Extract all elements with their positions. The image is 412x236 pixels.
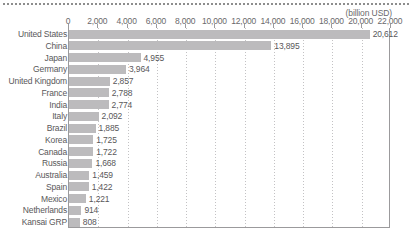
bar-value-label: 13,895 <box>274 41 299 51</box>
bar <box>69 100 109 109</box>
bar <box>69 53 141 62</box>
category-label: Australia <box>35 170 67 180</box>
bar-value-label: 3,964 <box>129 64 150 74</box>
bar-value-label: 2,774 <box>112 100 133 110</box>
category-label: United States <box>18 29 67 39</box>
bar-value-label: 4,955 <box>144 53 165 63</box>
bar-row: France2,788 <box>0 87 412 99</box>
category-label: India <box>49 100 67 110</box>
bar-row: Russia1,668 <box>0 157 412 169</box>
category-label: France <box>41 88 67 98</box>
axis-tick-label: 18,000 <box>319 16 344 26</box>
category-label: Spain <box>46 182 67 192</box>
bar-row: India2,774 <box>0 99 412 111</box>
bar <box>69 206 81 215</box>
bar-row: Kansai GRP808 <box>0 216 412 228</box>
axis-tick-labels: 02,0004,0006,0008,00010,00012,00014,0001… <box>0 16 412 26</box>
bar-row: United Kingdom2,857 <box>0 75 412 87</box>
category-label: Netherlands <box>23 205 67 215</box>
bar-row: United States20,612 <box>0 28 412 40</box>
axis-tick-label: 10,000 <box>202 16 227 26</box>
bar-value-label: 1,725 <box>96 135 117 145</box>
axis-tick-label: 20,000 <box>348 16 373 26</box>
bar <box>69 218 80 227</box>
bar-value-label: 914 <box>84 205 98 215</box>
decorative-dotted-rule <box>3 3 409 5</box>
bar-row: Australia1,459 <box>0 169 412 181</box>
axis-tick-label: 8,000 <box>175 16 195 26</box>
bar <box>69 65 126 74</box>
category-label: Italy <box>52 111 67 121</box>
category-label: Russia <box>42 158 67 168</box>
axis-tick-label: 12,000 <box>231 16 256 26</box>
bar <box>69 159 92 168</box>
bar <box>69 88 109 97</box>
category-label: Canada <box>38 147 67 157</box>
bar <box>69 112 99 121</box>
bar-value-label: 1,885 <box>99 123 120 133</box>
bar <box>69 41 271 50</box>
category-label: United Kingdom <box>9 76 67 86</box>
bar-row: Mexico1,221 <box>0 193 412 205</box>
bar <box>69 182 89 191</box>
category-label: Japan <box>45 53 67 63</box>
axis-tick-label: 4,000 <box>116 16 136 26</box>
bar-value-label: 1,459 <box>92 170 113 180</box>
bar-row: Italy2,092 <box>0 110 412 122</box>
category-label: Mexico <box>41 194 67 204</box>
bar <box>69 124 96 133</box>
bar <box>69 171 89 180</box>
bar-row: Spain1,422 <box>0 181 412 193</box>
bar-value-label: 808 <box>83 217 97 227</box>
bar-row: Korea1,725 <box>0 134 412 146</box>
bar-rows: United States20,612China13,895Japan4,955… <box>0 28 412 228</box>
bar-value-label: 20,612 <box>373 29 398 39</box>
bar <box>69 77 110 86</box>
bar-value-label: 1,221 <box>89 194 110 204</box>
bar-value-label: 1,722 <box>96 147 117 157</box>
bar-value-label: 2,857 <box>113 76 134 86</box>
bar-value-label: 2,788 <box>112 88 133 98</box>
category-label: Brazil <box>47 123 67 133</box>
bar-row: Germany3,964 <box>0 63 412 75</box>
axis-tick-label: 0 <box>66 16 71 26</box>
axis-tick-label: 22,000 <box>378 16 403 26</box>
bar <box>69 30 370 39</box>
axis-tick-label: 14,000 <box>261 16 286 26</box>
bar <box>69 135 93 144</box>
bar-row: Netherlands914 <box>0 204 412 216</box>
axis-tick-label: 16,000 <box>290 16 315 26</box>
category-label: Korea <box>45 135 67 145</box>
category-label: Kansai GRP <box>22 217 67 227</box>
bar-row: Canada1,722 <box>0 146 412 158</box>
bar-chart: (billion USD) 02,0004,0006,0008,00010,00… <box>0 0 412 236</box>
category-label: China <box>46 41 67 51</box>
bar <box>69 147 93 156</box>
bar-value-label: 1,668 <box>95 158 116 168</box>
axis-tick-label: 6,000 <box>146 16 166 26</box>
bar-row: Japan4,955 <box>0 52 412 64</box>
bar-row: China13,895 <box>0 40 412 52</box>
bar-value-label: 1,422 <box>92 182 113 192</box>
bar-row: Brazil1,885 <box>0 122 412 134</box>
axis-tick-label: 2,000 <box>87 16 107 26</box>
category-label: Germany <box>33 64 67 74</box>
bar-value-label: 2,092 <box>102 111 123 121</box>
bar <box>69 194 86 203</box>
